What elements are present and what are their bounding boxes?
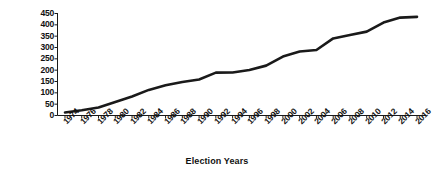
plot-area bbox=[0, 0, 434, 175]
x-axis-title: Election Years bbox=[0, 156, 434, 166]
pac-contributions-line-chart: PAC Contributions (in millions of dollar… bbox=[0, 0, 434, 175]
data-series-line bbox=[65, 17, 417, 113]
